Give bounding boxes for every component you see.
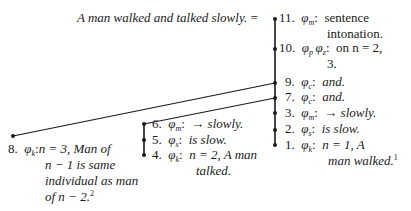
node-label-cont: talked.: [196, 163, 231, 178]
node-4-cont: talked.: [196, 163, 231, 179]
node-8-cont-1: n − 1 is same: [45, 157, 115, 173]
node-dot-8: [11, 134, 15, 138]
node-label: and.: [322, 74, 345, 89]
node-dot-2: [273, 128, 277, 132]
phi-subscript: p: [309, 48, 313, 57]
node-10: 10. φp φz: on n = 2,: [279, 40, 382, 56]
node-number: 4.: [152, 147, 162, 162]
node-1: 1. φk: n = 1, A: [285, 137, 365, 153]
node-number: 5.: [152, 132, 162, 147]
node-dot-10: [273, 47, 277, 51]
node-label: on n = 2,: [336, 40, 382, 55]
node-number: 2.: [285, 121, 295, 136]
node-8-cont-3: of n − 2.2: [45, 189, 94, 205]
node-dot-3: [273, 111, 277, 115]
node-2: 2. φs: is slow.: [285, 121, 360, 137]
colon: :: [314, 10, 318, 25]
node-3: 3. φm: → slowly.: [285, 105, 376, 121]
node-label: is slow.: [189, 132, 227, 147]
root-sentence: A man walked and talked slowly. =: [77, 10, 258, 26]
node-number: 7.: [285, 89, 295, 104]
node-number: 3.: [285, 105, 295, 120]
node-dot-6: [142, 122, 146, 126]
colon: :: [312, 89, 316, 104]
node-label: sentence: [324, 10, 369, 25]
node-label-cont: 3.: [327, 56, 337, 71]
node-11: 11. φm: sentence: [279, 10, 369, 26]
node-label-cont: intonation.: [327, 26, 383, 41]
root-sentence-text: A man walked and talked slowly.: [77, 10, 247, 25]
node-label: → slowly.: [191, 116, 243, 131]
node-1-cont: man walked.1: [328, 153, 398, 169]
node-number: 8.: [8, 141, 18, 156]
colon: :: [314, 105, 318, 120]
node-label-cont: of n − 2.: [45, 189, 90, 204]
phi-symbol: φ: [316, 40, 323, 55]
node-label: n = 1, A: [322, 137, 364, 152]
footnote-marker: 2: [90, 189, 94, 198]
colon: :: [312, 121, 316, 136]
node-10-cont: 3.: [327, 56, 337, 72]
node-5: 5. φs: is slow.: [152, 132, 227, 148]
node-number: 11.: [279, 10, 295, 25]
node-dot-7: [273, 96, 277, 100]
equals-sign: =: [250, 10, 257, 25]
node-label-cont: individual as man: [45, 173, 138, 188]
node-dot-4: [142, 153, 146, 157]
node-6: 6. φm: → slowly.: [152, 116, 243, 132]
colon: :: [326, 40, 330, 55]
node-dot-9: [273, 81, 277, 85]
node-label: is slow.: [322, 121, 360, 136]
colon: :: [181, 116, 185, 131]
node-label-cont: man walked.: [328, 153, 394, 168]
node-dot-1: [273, 143, 277, 147]
node-dot-5: [142, 138, 146, 142]
node-4: 4. φk: n = 2, A man: [152, 147, 257, 163]
footnote-marker: 1: [394, 153, 398, 162]
node-number: 6.: [152, 116, 162, 131]
node-number: 10.: [279, 40, 295, 55]
colon: :: [312, 137, 316, 152]
node-9: 9. φc: and.: [285, 74, 345, 90]
node-number: 1.: [285, 137, 295, 152]
node-number: 9.: [285, 74, 295, 89]
colon: :: [312, 74, 316, 89]
colon: :: [179, 132, 183, 147]
node-label-cont: n − 1 is same: [45, 157, 115, 172]
colon: :: [179, 147, 183, 162]
node-label: n = 3, Man of: [39, 141, 111, 156]
node-label: → slowly.: [324, 105, 376, 120]
node-8: 8. φk:n = 3, Man of: [8, 141, 111, 157]
node-8-cont-2: individual as man: [45, 173, 138, 189]
node-dot-11: [273, 17, 277, 21]
phi-symbol: φ: [302, 40, 309, 55]
node-label: and.: [322, 89, 345, 104]
node-label: n = 2, A man: [189, 147, 257, 162]
node-7: 7. φc: and.: [285, 89, 345, 105]
